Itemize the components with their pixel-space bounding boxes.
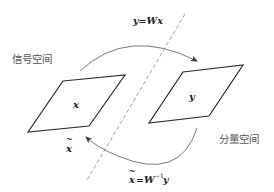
vector-y-label: y (188, 91, 196, 102)
x-tilde-symbol: x (65, 143, 73, 154)
inverse-transform-formula: ~ x =W −1 y (128, 166, 170, 185)
vector-x-label: x (72, 99, 80, 110)
space-divider-dashed-line (87, 14, 185, 180)
diagram-canvas: 信号空间 分量空间 y=Wx x y ~ x ~ x =W −1 y (0, 0, 274, 192)
signal-space-label: 信号空间 (12, 53, 52, 65)
forward-mapping-arrow (80, 46, 197, 71)
inverse-formula-lhs: x (128, 174, 135, 185)
component-space-label: 分量空间 (219, 133, 259, 145)
inverse-formula-eq-w: =W (136, 174, 156, 185)
component-space-parallelogram (149, 65, 243, 123)
inverse-formula-y: y (162, 174, 170, 185)
x-tilde-label: ~ x (65, 134, 73, 154)
inverse-mapping-arrow (86, 128, 197, 164)
forward-transform-formula: y=Wx (132, 15, 163, 26)
